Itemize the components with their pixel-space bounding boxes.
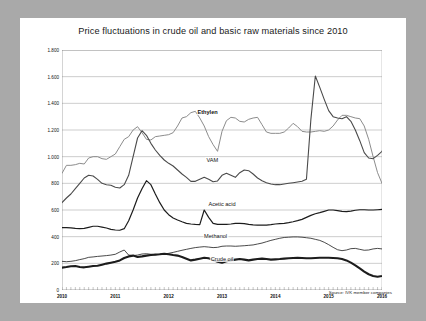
series-line-vam bbox=[62, 76, 382, 203]
x-axis-tick-label: 2012 bbox=[164, 294, 174, 299]
y-axis-tick-label: 200 bbox=[51, 261, 62, 266]
y-axis-tick-label: 1.800 bbox=[48, 48, 63, 53]
y-axis-tick-label: 1.000 bbox=[48, 154, 63, 159]
y-axis-tick-label: 1.200 bbox=[48, 127, 63, 132]
y-axis-tick-label: 0 bbox=[56, 288, 62, 293]
y-axis-tick-label: 1.400 bbox=[48, 101, 63, 106]
source-note: Source: IVK member companies bbox=[329, 290, 392, 295]
series-line-ethylen bbox=[62, 111, 382, 183]
plot-area: 02004006008001.0001.2001.4001.6001.800 2… bbox=[62, 50, 382, 290]
chart-svg bbox=[62, 50, 382, 290]
y-axis-tick-label: 800 bbox=[51, 181, 62, 186]
x-axis-tick-label: 2013 bbox=[217, 294, 227, 299]
x-axis-tick-label: 2010 bbox=[57, 294, 67, 299]
image-frame: Price fluctuations in crude oil and basi… bbox=[0, 0, 426, 321]
x-axis-tick-label: 2014 bbox=[270, 294, 280, 299]
series-label-acetic-acid: Acetic acid bbox=[207, 201, 236, 207]
y-axis-tick-label: 600 bbox=[51, 207, 62, 212]
series-label-methanol: Methanol bbox=[203, 233, 228, 239]
y-axis-tick-label: 400 bbox=[51, 234, 62, 239]
axis-lines bbox=[62, 50, 382, 290]
series-label-vam: VAM bbox=[206, 157, 220, 163]
y-axis-tick-label: 1.600 bbox=[48, 74, 63, 79]
series-label-ethylen: Ethylen bbox=[196, 109, 218, 115]
chart-card: Price fluctuations in crude oil and basi… bbox=[20, 18, 406, 303]
series-paths bbox=[62, 76, 382, 283]
series-label-crude-oil: Crude oil bbox=[210, 256, 234, 262]
chart-title: Price fluctuations in crude oil and basi… bbox=[20, 26, 406, 36]
x-axis-tick-label: 2011 bbox=[110, 294, 120, 299]
